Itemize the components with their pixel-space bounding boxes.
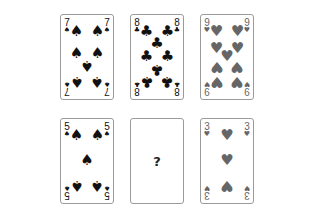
clubs-icon: ♣ bbox=[159, 74, 175, 89]
clubs-icon: ♣ bbox=[139, 74, 155, 89]
hearts-icon: ♥ bbox=[243, 184, 251, 191]
hearts-icon: ♥ bbox=[219, 128, 235, 143]
hearts-icon: ♥ bbox=[229, 74, 245, 89]
spades-icon: ♠ bbox=[89, 24, 105, 39]
corner-index-tl: 3♥ bbox=[203, 122, 211, 138]
rank-label: 3 bbox=[203, 191, 211, 200]
corner-index-tr: 3♥ bbox=[243, 122, 251, 138]
hearts-icon: ♥ bbox=[209, 74, 225, 89]
hearts-icon: ♥ bbox=[219, 153, 235, 168]
card-9-of-hearts[interactable]: 9♥9♥9♥9♥♥♥♥♥♥♥♥♥♥ bbox=[200, 14, 254, 100]
hearts-icon: ♥ bbox=[243, 131, 251, 138]
corner-index-bl: 3♥ bbox=[203, 184, 211, 200]
hearts-icon: ♥ bbox=[203, 184, 211, 191]
spades-icon: ♠ bbox=[89, 74, 105, 89]
card-8-of-clubs[interactable]: 8♣8♣8♣8♣♣♣♣♣♣♣♣♣ bbox=[130, 14, 184, 100]
spades-icon: ♠ bbox=[79, 58, 95, 73]
hearts-icon: ♥ bbox=[209, 24, 225, 39]
rank-label: 3 bbox=[243, 191, 251, 200]
hearts-icon: ♥ bbox=[219, 178, 235, 193]
spades-icon: ♠ bbox=[79, 153, 95, 168]
hearts-icon: ♥ bbox=[229, 59, 245, 74]
spades-icon: ♠ bbox=[89, 178, 105, 193]
card-unknown[interactable]: ? bbox=[130, 118, 184, 204]
card-7-of-spades[interactable]: 7♠7♠7♠7♠♠♠♠♠♠♠♠ bbox=[60, 14, 114, 100]
spades-icon: ♠ bbox=[89, 128, 105, 143]
spades-icon: ♠ bbox=[69, 24, 85, 39]
question-mark-icon: ? bbox=[153, 154, 161, 169]
spades-icon: ♠ bbox=[69, 74, 85, 89]
spades-icon: ♠ bbox=[69, 128, 85, 143]
card-3-of-hearts[interactable]: 3♥3♥3♥3♥♥♥♥ bbox=[200, 118, 254, 204]
corner-index-br: 3♥ bbox=[243, 184, 251, 200]
hearts-icon: ♥ bbox=[229, 24, 245, 39]
hearts-icon: ♥ bbox=[203, 131, 211, 138]
spades-icon: ♠ bbox=[69, 178, 85, 193]
card-5-of-spades[interactable]: 5♠5♠5♠5♠♠♠♠♠♠ bbox=[60, 118, 114, 204]
hearts-icon: ♥ bbox=[209, 59, 225, 74]
